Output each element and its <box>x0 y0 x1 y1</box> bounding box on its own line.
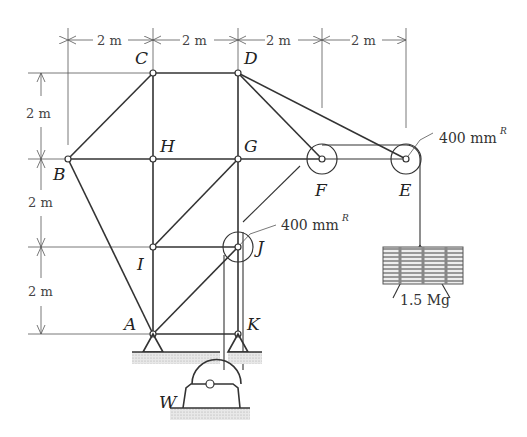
label-C: C <box>135 48 148 68</box>
horizontal-dimensions: 2 m 2 m 2 m 2 m <box>68 28 406 145</box>
pulley-J-radius-sup: R <box>341 213 349 223</box>
dim-v3: 2 m <box>28 284 53 299</box>
dim-h2: 2 m <box>182 33 207 48</box>
vertical-dimensions: 2 m 2 m 2 m <box>26 73 150 334</box>
pulley-J-radius: 400 mm <box>281 217 339 233</box>
load <box>383 247 463 284</box>
truss-diagram: 2 m 2 m 2 m 2 m 2 m 2 m 2 m <box>0 0 527 437</box>
label-E: E <box>398 180 412 200</box>
label-B: B <box>52 164 66 184</box>
winch <box>170 360 250 421</box>
label-J: J <box>254 237 265 257</box>
dim-h3: 2 m <box>266 33 291 48</box>
load-label: 1.5 Mg <box>400 292 450 308</box>
label-H: H <box>159 136 176 156</box>
label-D: D <box>243 48 258 68</box>
dim-v1: 2 m <box>26 106 51 121</box>
label-K: K <box>246 314 261 334</box>
truss-members <box>68 73 406 334</box>
label-F: F <box>314 180 328 200</box>
label-I: I <box>136 254 144 274</box>
dim-v2: 2 m <box>28 195 53 210</box>
dim-h1: 2 m <box>97 33 122 48</box>
dim-h4: 2 m <box>351 33 376 48</box>
pulley-E-radius: 400 mm <box>439 130 497 146</box>
label-G: G <box>244 136 258 156</box>
pulley-E-radius-sup: R <box>499 126 507 136</box>
label-W: W <box>159 392 178 412</box>
label-A: A <box>122 314 136 334</box>
